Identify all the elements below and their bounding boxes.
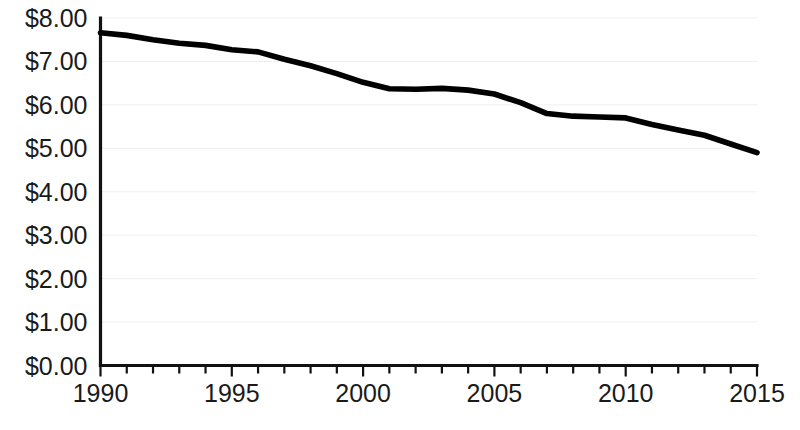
y-axis-tick-label: $8.00 — [25, 4, 88, 32]
y-axis-tick-label: $0.00 — [25, 352, 88, 380]
x-axis-tick-label: 2005 — [467, 379, 523, 407]
x-axis-tick-label: 2010 — [598, 379, 654, 407]
y-axis-tick-label: $4.00 — [25, 178, 88, 206]
y-axis-tick-labels: $0.00$1.00$2.00$3.00$4.00$5.00$6.00$7.00… — [25, 4, 88, 380]
y-axis-tick-label: $1.00 — [25, 308, 88, 336]
y-axis-tick-label: $5.00 — [25, 134, 88, 162]
line-chart: $0.00$1.00$2.00$3.00$4.00$5.00$6.00$7.00… — [0, 0, 800, 430]
y-axis-tick-label: $6.00 — [25, 91, 88, 119]
y-axis-tick-label: $3.00 — [25, 221, 88, 249]
x-axis-tick-label: 1990 — [73, 379, 129, 407]
x-axis-tick-label: 1995 — [204, 379, 260, 407]
chart-container: $0.00$1.00$2.00$3.00$4.00$5.00$6.00$7.00… — [0, 0, 800, 430]
y-axis-tick-label: $7.00 — [25, 47, 88, 75]
x-axis-tick-label: 2000 — [335, 379, 391, 407]
y-axis-tick-label: $2.00 — [25, 265, 88, 293]
x-axis-tick-label: 2015 — [729, 379, 785, 407]
